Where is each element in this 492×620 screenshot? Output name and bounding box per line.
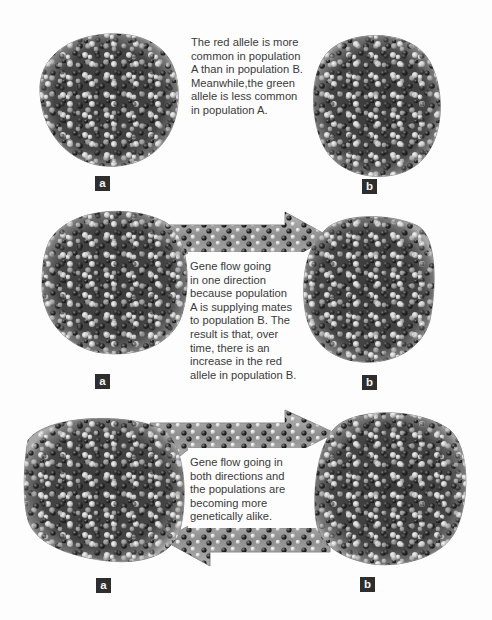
population-a-label: a	[96, 578, 111, 593]
panel-2-caption: Gene flow going in one direction because…	[190, 260, 296, 382]
panel-1-caption: The red allele is more common in populat…	[191, 36, 303, 118]
gene-flow-figure: The red allele is more common in populat…	[0, 0, 492, 620]
population-a-label: a	[95, 176, 110, 191]
population-b-label: b	[362, 375, 377, 390]
population-b-label: b	[362, 179, 377, 194]
panel-3-caption: Gene flow going in both directions and t…	[190, 456, 285, 524]
population-a-label: a	[95, 374, 110, 389]
population-b-label: b	[360, 577, 375, 592]
